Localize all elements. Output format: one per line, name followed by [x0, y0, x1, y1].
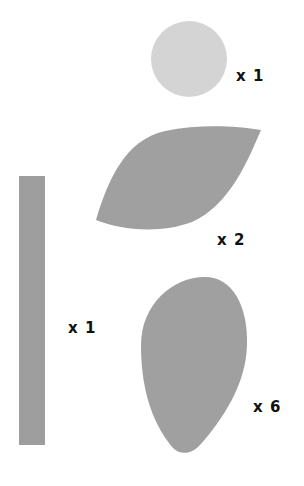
piece-petal: x 6	[141, 277, 281, 453]
circle-shape	[151, 21, 227, 97]
piece-leaf: x 2	[96, 126, 261, 249]
leaf-count-label: x 2	[217, 231, 245, 249]
pattern-pieces-diagram: x 1 x 2 x 1 x 6	[0, 0, 304, 486]
stem-count-label: x 1	[68, 319, 96, 337]
leaf-shape	[96, 126, 261, 229]
circle-count-label: x 1	[236, 67, 264, 85]
piece-stem: x 1	[19, 176, 96, 445]
piece-circle: x 1	[151, 21, 264, 97]
petal-count-label: x 6	[253, 398, 281, 416]
petal-shape	[141, 277, 247, 453]
stem-shape	[19, 176, 45, 445]
